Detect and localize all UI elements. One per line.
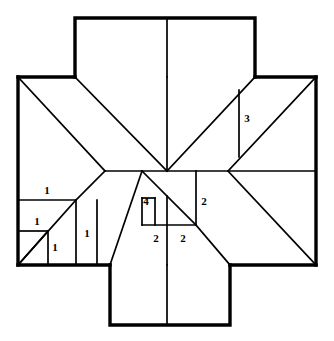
labels-group: 1 1 1 1 4 2 2 2 3	[34, 112, 250, 253]
label-1-d: 1	[84, 227, 90, 239]
lower-right-diagonal	[228, 171, 316, 265]
upper-right-diagonals-group	[167, 77, 316, 171]
label-2-c: 2	[180, 232, 186, 244]
label-2-b: 2	[153, 232, 159, 244]
label-2-a: 2	[201, 195, 207, 207]
diagram-canvas: 1 1 1 1 4 2 2 2 3	[0, 0, 334, 341]
label-3: 3	[244, 112, 250, 124]
label-1-c: 1	[52, 241, 58, 253]
lower-chevron-group	[110, 171, 230, 265]
label-1-a: 1	[44, 184, 50, 196]
north-tab-outline	[75, 18, 255, 77]
upper-left-diagonal-inner	[75, 77, 167, 171]
upper-left-diagonals-group	[18, 77, 167, 171]
dissection-diagram: 1 1 1 1 4 2 2 2 3	[0, 0, 334, 341]
south-tab-outline	[110, 265, 230, 325]
left-square-mid-diagonal	[18, 231, 48, 265]
lower-left-oblique-upper	[76, 171, 105, 200]
center-nested-squares-group	[142, 171, 196, 265]
upper-left-diagonal-outer	[18, 77, 105, 171]
label-1-b: 1	[34, 215, 40, 227]
label-4: 4	[143, 195, 149, 207]
lower-chevron-right-arm	[196, 225, 230, 265]
lower-chevron-left-arm	[110, 171, 142, 265]
lower-right-diagonal-group	[228, 171, 316, 265]
